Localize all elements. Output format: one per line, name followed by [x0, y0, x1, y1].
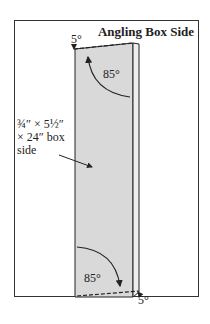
- bottom-small-angle-label: 5°: [138, 293, 149, 307]
- top-small-angle-label: 5°: [71, 32, 82, 46]
- board-face: [75, 43, 133, 297]
- callout-line-3: side: [17, 143, 36, 157]
- figure-title: Angling Box Side: [98, 24, 194, 39]
- board-edge: [133, 43, 139, 297]
- angling-box-side-diagram: Angling Box Side 5° 85° ¾″ × 5½″ × 24″ b…: [0, 0, 210, 324]
- top-large-angle-label: 85°: [103, 67, 120, 81]
- bottom-large-angle-label: 85°: [84, 271, 101, 285]
- callout-line-2: × 24″ box: [17, 130, 65, 144]
- callout-line-1: ¾″ × 5½″: [17, 117, 64, 131]
